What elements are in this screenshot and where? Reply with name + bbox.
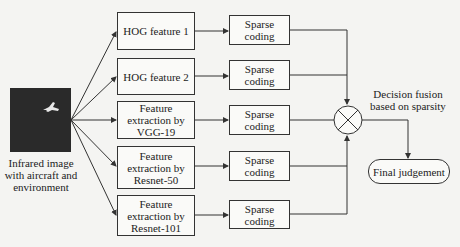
final-judgement-node: Final judgement bbox=[368, 159, 450, 184]
sparse-coding-box-4: Sparse coding bbox=[229, 151, 290, 181]
feature-box-hog1: HOG feature 1 bbox=[117, 12, 195, 50]
feature-box-hog2: HOG feature 2 bbox=[117, 58, 195, 95]
aircraft-icon bbox=[42, 101, 60, 113]
infrared-image bbox=[10, 88, 71, 152]
sparse-coding-box-3: Sparse coding bbox=[229, 105, 290, 135]
feature-box-vgg19: Feature extraction by VGG-19 bbox=[117, 101, 195, 139]
sparse-coding-box-1: Sparse coding bbox=[229, 15, 290, 45]
fusion-label: Decision fusion based on sparsity bbox=[358, 88, 458, 112]
input-label: Infrared image with aircraft and environ… bbox=[0, 157, 82, 193]
fusion-circle-times-icon bbox=[334, 106, 362, 134]
sparse-coding-box-2: Sparse coding bbox=[229, 60, 290, 90]
feature-box-resnet50: Feature extraction by Resnet-50 bbox=[117, 146, 195, 189]
feature-box-resnet101: Feature extraction by Resnet-101 bbox=[117, 195, 195, 236]
sparse-coding-box-5: Sparse coding bbox=[229, 200, 290, 229]
